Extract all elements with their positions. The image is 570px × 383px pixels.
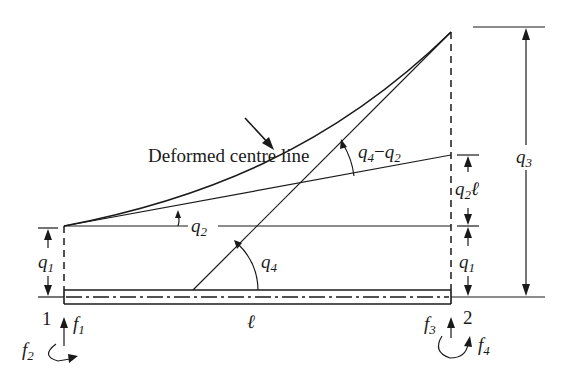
- f1-force-arrow: [60, 317, 68, 346]
- q4-label: q4: [261, 251, 278, 275]
- length-label: ℓ: [247, 311, 255, 332]
- q2-angle-arc: [175, 210, 181, 226]
- deformed-centre-line: [64, 32, 451, 226]
- beam-element: [64, 290, 451, 304]
- q4-minus-q2-angle-arc: [340, 139, 354, 176]
- f3-label: f3: [424, 313, 436, 337]
- q2-label: q2: [191, 215, 208, 239]
- callout-label: Deformed centre line: [148, 145, 309, 166]
- f4-moment-arrow: [438, 336, 472, 358]
- f4-label: f4: [478, 334, 490, 358]
- q4-angle-arc: [234, 240, 258, 290]
- q1-right-label: q1: [459, 251, 475, 275]
- node1-label: 1: [42, 308, 52, 329]
- q3-label: q3: [516, 146, 533, 170]
- q2l-label: q2ℓ: [455, 178, 479, 202]
- f2-moment-arrow: [48, 344, 78, 363]
- beam-diagram: Deformed centre line q2 q4 q4−q2 q1: [0, 0, 570, 383]
- f3-force-arrow: [447, 317, 455, 338]
- node2-label: 2: [463, 307, 473, 328]
- f2-label: f2: [22, 339, 34, 363]
- f1-label: f1: [73, 313, 85, 337]
- q1-left-label: q1: [38, 251, 54, 275]
- q4-minus-q2-label: q4−q2: [358, 141, 401, 165]
